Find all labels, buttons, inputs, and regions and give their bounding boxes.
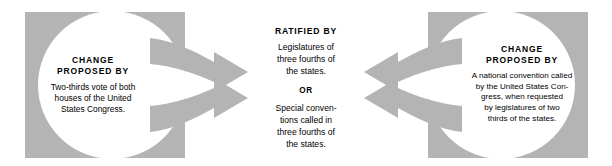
left-panel-body: Two-thirds vote of both houses of the Un… [18, 82, 168, 115]
center-or-label: OR [244, 86, 368, 97]
right-body-line-3: gress, when requested [446, 92, 598, 103]
center-option-b: Special conven- tions called in three fo… [244, 103, 368, 150]
center-option-b-line-1: Special conven- [244, 103, 368, 115]
right-body-line-1: A national convention called [446, 71, 598, 82]
center-option-b-line-3: three fourths of [244, 127, 368, 139]
left-body-line-3: States Congress. [18, 104, 168, 115]
center-option-a: Legislatures of three fourths of the sta… [244, 42, 368, 78]
center-option-b-line-2: tions called in [244, 115, 368, 127]
right-body-line-4: by legislatures of two [446, 103, 598, 114]
left-heading-line-1: CHANGE [18, 55, 168, 66]
right-body-line-2: by the United States Con- [446, 82, 598, 93]
center-option-a-line-1: Legislatures of [244, 42, 368, 54]
center-option-b-line-4: the states. [244, 139, 368, 151]
right-panel-body: A national convention called by the Unit… [446, 71, 598, 125]
right-panel-heading: CHANGE PROPOSED BY [446, 44, 598, 66]
left-panel-text: CHANGE PROPOSED BY Two-thirds vote of bo… [18, 55, 168, 115]
center-panel-heading: RATIFIED BY [244, 26, 368, 37]
center-panel-text: RATIFIED BY Legislatures of three fourth… [244, 26, 368, 151]
right-body-line-5: thirds of the states. [446, 114, 598, 125]
right-heading-line-2: PROPOSED BY [446, 55, 598, 66]
constitution-amendment-diagram: CHANGE PROPOSED BY Two-thirds vote of bo… [0, 0, 612, 166]
right-heading-line-1: CHANGE [446, 44, 598, 55]
right-panel-text: CHANGE PROPOSED BY A national convention… [446, 44, 598, 125]
left-panel-heading: CHANGE PROPOSED BY [18, 55, 168, 77]
center-option-a-line-2: three fourths of [244, 54, 368, 66]
center-option-a-line-3: the states. [244, 66, 368, 78]
left-body-line-2: houses of the United [18, 93, 168, 104]
left-body-line-1: Two-thirds vote of both [18, 82, 168, 93]
left-heading-line-2: PROPOSED BY [18, 66, 168, 77]
